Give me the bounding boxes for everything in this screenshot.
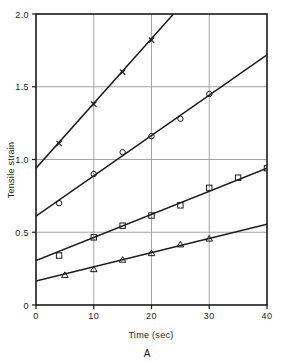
- x-tick-label: 40: [262, 311, 273, 321]
- figure-panel: 010203040 00.51.01.52.0 Time (sec) Tensi…: [0, 0, 285, 362]
- y-axis-title: Tensile strain: [6, 142, 16, 199]
- y-tick-label: 0: [24, 301, 29, 311]
- chart-canvas: 010203040 00.51.01.52.0 Time (sec) Tensi…: [0, 0, 285, 362]
- x-tick-label: 30: [204, 311, 215, 321]
- chart-background: [0, 0, 285, 362]
- x-tick-label: 0: [33, 311, 38, 321]
- y-tick-label: 1.5: [15, 82, 29, 92]
- x-tick-label: 10: [88, 311, 99, 321]
- x-tick-label: 20: [146, 311, 157, 321]
- x-axis-title: Time (sec): [128, 330, 173, 340]
- panel-caption: A: [144, 348, 151, 359]
- y-tick-label: 2.0: [15, 10, 29, 20]
- y-tick-label: 1.0: [15, 155, 29, 165]
- y-tick-label: 0.5: [15, 228, 29, 238]
